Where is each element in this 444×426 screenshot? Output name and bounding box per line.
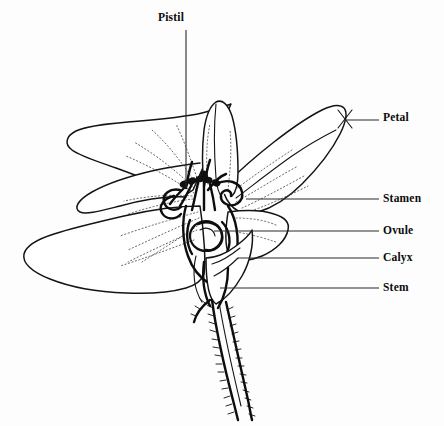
label-calyx: Calyx	[383, 252, 413, 264]
flower-anatomy-figure: Pistil Petal Stamen Ovule Calyx Stem	[0, 0, 444, 426]
label-pistil: Pistil	[158, 12, 184, 24]
label-petal: Petal	[383, 112, 409, 124]
stem-stalk	[191, 299, 255, 420]
label-stamen: Stamen	[383, 193, 421, 205]
petal-lower-left	[24, 206, 205, 293]
flower-diagram-svg	[0, 0, 444, 426]
label-ovule: Ovule	[383, 225, 413, 237]
label-stem: Stem	[383, 282, 409, 294]
